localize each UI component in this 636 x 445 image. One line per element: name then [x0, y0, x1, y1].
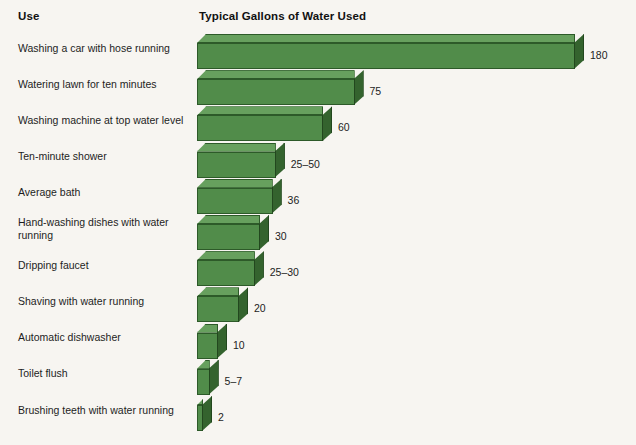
bar-side-face — [238, 287, 248, 322]
bar-side-face — [209, 360, 219, 395]
bar — [197, 106, 332, 141]
bar-side-face — [259, 215, 269, 250]
bar-top-face — [197, 106, 323, 115]
bar-front-face — [197, 260, 255, 286]
bar — [197, 34, 584, 69]
value-label: 2 — [218, 411, 224, 423]
category-label: Watering lawn for ten minutes — [18, 78, 190, 91]
value-label: 75 — [370, 85, 382, 97]
bar — [197, 360, 219, 395]
bar-front-face — [197, 152, 276, 178]
chart-row: Automatic dishwasher10 — [0, 324, 636, 359]
bar-top-face — [197, 287, 239, 296]
bar — [197, 70, 364, 105]
chart-row: Shaving with water running20 — [0, 287, 636, 322]
bar-side-face — [574, 34, 584, 69]
bar-top-face — [197, 34, 575, 43]
chart-row: Dripping faucet25–30 — [0, 251, 636, 286]
value-label: 5–7 — [225, 375, 243, 387]
value-label: 60 — [338, 121, 350, 133]
bar-top-face — [197, 70, 355, 79]
bar-top-face — [197, 215, 260, 224]
chart-row: Hand-washing dishes with water running30 — [0, 215, 636, 250]
water-usage-chart: Use Typical Gallons of Water Used Washin… — [0, 0, 636, 445]
bar-top-face — [197, 143, 276, 152]
bar-top-face — [197, 324, 218, 333]
bar-front-face — [197, 224, 260, 250]
category-label: Ten-minute shower — [18, 150, 190, 163]
category-label: Shaving with water running — [18, 295, 190, 308]
value-label: 20 — [254, 302, 266, 314]
bar-top-face — [197, 251, 255, 260]
plot-area: Washing a car with hose running180Wateri… — [0, 30, 636, 440]
bar — [197, 324, 227, 359]
bar-side-face — [322, 106, 332, 141]
bar-side-face — [202, 396, 212, 431]
category-label: Hand-washing dishes with water running — [18, 216, 190, 242]
category-column-header: Use — [18, 10, 39, 22]
value-label: 25–50 — [291, 158, 320, 170]
bar-top-face — [197, 179, 273, 188]
value-label: 30 — [275, 230, 287, 242]
bar-front-face — [197, 369, 210, 395]
category-label: Toilet flush — [18, 367, 190, 380]
category-label: Average bath — [18, 186, 190, 199]
bar-front-face — [197, 296, 239, 322]
category-label: Automatic dishwasher — [18, 331, 190, 344]
chart-row: Brushing teeth with water running2 — [0, 396, 636, 431]
category-label: Dripping faucet — [18, 259, 190, 272]
bar-front-face — [197, 188, 273, 214]
chart-title: Typical Gallons of Water Used — [199, 10, 366, 22]
bar-side-face — [254, 251, 264, 286]
bar-side-face — [275, 143, 285, 178]
bar — [197, 251, 264, 286]
value-label: 10 — [233, 339, 245, 351]
bar-front-face — [197, 79, 355, 105]
bar — [197, 396, 212, 431]
bar — [197, 143, 285, 178]
bar — [197, 287, 248, 322]
bar-front-face — [197, 43, 575, 69]
value-label: 180 — [590, 49, 608, 61]
chart-row: Average bath36 — [0, 179, 636, 214]
bar-side-face — [354, 70, 364, 105]
bar-top-face — [197, 396, 203, 405]
chart-row: Washing a car with hose running180 — [0, 34, 636, 69]
value-label: 25–30 — [270, 266, 299, 278]
bar — [197, 215, 269, 250]
bar-top-face — [197, 360, 210, 369]
chart-row: Toilet flush5–7 — [0, 360, 636, 395]
value-label: 36 — [288, 194, 300, 206]
bar-side-face — [272, 179, 282, 214]
chart-row: Watering lawn for ten minutes75 — [0, 70, 636, 105]
bar-front-face — [197, 115, 323, 141]
category-label: Washing machine at top water level — [18, 114, 190, 127]
chart-row: Ten-minute shower25–50 — [0, 143, 636, 178]
bar-front-face — [197, 333, 218, 359]
category-label: Washing a car with hose running — [18, 42, 190, 55]
bar-side-face — [217, 324, 227, 359]
category-label: Brushing teeth with water running — [18, 404, 190, 417]
chart-row: Washing machine at top water level60 — [0, 106, 636, 141]
bar — [197, 179, 282, 214]
